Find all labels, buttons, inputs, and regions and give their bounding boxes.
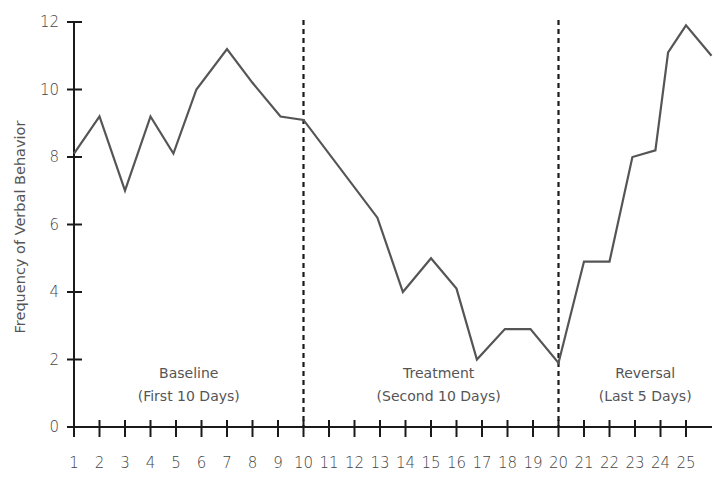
x-tick-label: 18 xyxy=(498,454,517,472)
y-axis-title: Frequency of Verbal Behavior xyxy=(12,121,28,334)
x-tick-label: 2 xyxy=(95,454,105,472)
x-tick-label: 21 xyxy=(574,454,593,472)
x-tick-label: 17 xyxy=(472,454,491,472)
phase-annotations: Baseline(First 10 Days)Treatment(Second … xyxy=(138,365,692,404)
x-tick-label: 6 xyxy=(197,454,207,472)
y-tick-label: 4 xyxy=(49,283,59,301)
x-tick-label: 13 xyxy=(370,454,389,472)
y-tick-label: 0 xyxy=(49,418,59,436)
y-axis-ticks: 024681012 xyxy=(40,13,82,436)
x-tick-label: 9 xyxy=(273,454,283,472)
x-tick-label: 11 xyxy=(319,454,338,472)
x-tick-label: 19 xyxy=(523,454,542,472)
y-tick-label: 6 xyxy=(49,216,59,234)
x-tick-label: 1 xyxy=(69,454,79,472)
y-tick-label: 8 xyxy=(49,148,59,166)
x-tick-label: 12 xyxy=(345,454,364,472)
x-tick-label: 20 xyxy=(549,454,568,472)
x-tick-label: 22 xyxy=(600,454,619,472)
line-chart: Frequency of Verbal Behavior 024681012 1… xyxy=(0,0,725,478)
x-tick-label: 7 xyxy=(222,454,232,472)
phase-subtitle: (Second 10 Days) xyxy=(377,388,501,404)
verbal-behavior-line xyxy=(74,25,712,363)
x-tick-label: 8 xyxy=(248,454,258,472)
x-tick-label: 5 xyxy=(171,454,181,472)
x-tick-label: 25 xyxy=(676,454,695,472)
y-tick-label: 2 xyxy=(49,351,59,369)
phase-title: Baseline xyxy=(159,365,218,381)
x-tick-label: 16 xyxy=(447,454,466,472)
x-tick-label: 14 xyxy=(396,454,415,472)
y-tick-label: 12 xyxy=(40,13,59,31)
y-tick-label: 10 xyxy=(40,81,59,99)
x-tick-label: 24 xyxy=(651,454,670,472)
phase-subtitle: (Last 5 Days) xyxy=(599,388,692,404)
x-tick-label: 4 xyxy=(146,454,156,472)
x-tick-label: 3 xyxy=(120,454,130,472)
x-tick-label: 15 xyxy=(421,454,440,472)
phase-title: Treatment xyxy=(402,365,475,381)
x-tick-label: 23 xyxy=(625,454,644,472)
phase-subtitle: (First 10 Days) xyxy=(138,388,240,404)
x-tick-label: 10 xyxy=(294,454,313,472)
phase-title: Reversal xyxy=(615,365,675,381)
